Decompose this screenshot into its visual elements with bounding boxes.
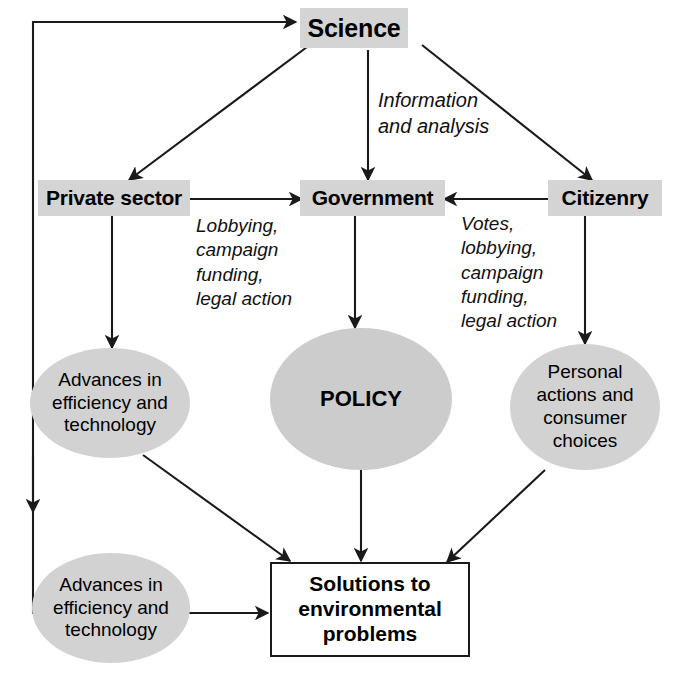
- node-citizenry-label: Citizenry: [562, 186, 649, 210]
- node-government-label: Government: [312, 186, 434, 210]
- diagram-canvas: Science Private sector Government Citize…: [0, 0, 678, 691]
- edge-science-to-private: [129, 44, 311, 180]
- node-solutions-label: Solutions to environmental problems: [284, 572, 456, 646]
- edge-label-votes: Votes, lobbying, campaign funding, legal…: [461, 212, 557, 334]
- node-solutions[interactable]: Solutions to environmental problems: [270, 562, 470, 657]
- edge-personal-to-solutions: [447, 470, 545, 562]
- node-policy-label: POLICY: [320, 386, 402, 412]
- node-advances-top-label: Advances in efficiency and technology: [38, 369, 182, 437]
- node-advances-bottom[interactable]: Advances in efficiency and technology: [32, 553, 190, 663]
- node-citizenry[interactable]: Citizenry: [548, 180, 662, 216]
- node-advances-bottom-label: Advances in efficiency and technology: [40, 574, 182, 642]
- edge-feedback-to-science: [33, 22, 296, 613]
- node-policy[interactable]: POLICY: [270, 328, 452, 470]
- edge-advances-top-to-solutions: [143, 455, 290, 561]
- node-science[interactable]: Science: [300, 8, 408, 48]
- node-private-sector[interactable]: Private sector: [38, 180, 190, 216]
- node-science-label: Science: [307, 14, 400, 43]
- node-advances-top[interactable]: Advances in efficiency and technology: [30, 348, 190, 458]
- node-personal-actions-label: Personal actions and consumer choices: [516, 361, 654, 452]
- node-government[interactable]: Government: [300, 180, 445, 216]
- node-personal-actions[interactable]: Personal actions and consumer choices: [510, 344, 660, 470]
- edge-label-lobbying: Lobbying, campaign funding, legal action: [196, 214, 292, 311]
- node-private-sector-label: Private sector: [46, 186, 182, 210]
- edge-label-information-and-analysis: Information and analysis: [378, 88, 489, 139]
